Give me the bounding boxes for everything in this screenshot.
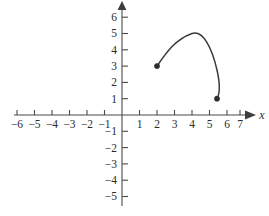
y-tick-label-1: 1 [111, 93, 117, 105]
x-tick-label-neg4: −4 [46, 118, 58, 130]
x-axis-label: x [258, 108, 265, 122]
x-tick-label-1: 1 [137, 118, 143, 130]
x-tick-label-neg3: −3 [63, 118, 75, 130]
x-tick-label-7: 7 [237, 118, 243, 130]
x-axis-arrow-icon [245, 111, 256, 120]
y-tick-label-neg1: −1 [105, 125, 117, 137]
y-tick-label-neg3: −3 [105, 158, 117, 170]
coordinate-plane-svg: −6 −5 −4 −3 −2 −1 1 2 3 4 5 6 7 1 2 3 4 … [0, 0, 269, 216]
x-tick-label-5: 5 [207, 118, 213, 130]
y-tick-label-neg4: −4 [105, 174, 117, 186]
x-tick-label-neg2: −2 [81, 118, 93, 130]
x-tick-label-neg5: −5 [28, 118, 40, 130]
graph-figure: −6 −5 −4 −3 −2 −1 1 2 3 4 5 6 7 1 2 3 4 … [0, 0, 269, 216]
y-axis-arrow-icon [118, 1, 127, 10]
x-tick-label-neg6: −6 [11, 118, 23, 130]
y-tick-label-neg2: −2 [105, 142, 117, 154]
function-curve [157, 33, 219, 99]
y-tick-label-3: 3 [111, 60, 117, 72]
y-tick-label-5: 5 [111, 27, 117, 39]
x-tick-label-2: 2 [154, 118, 160, 130]
y-tick-label-4: 4 [111, 44, 117, 56]
x-tick-label-3: 3 [172, 118, 178, 130]
x-tick-label-4: 4 [189, 118, 195, 130]
curve-endpoint-left [154, 64, 159, 69]
y-tick-label-2: 2 [111, 76, 117, 88]
y-tick-label-6: 6 [111, 11, 117, 23]
y-tick-label-neg5: −5 [105, 190, 117, 202]
curve-endpoint-right [214, 96, 219, 101]
x-tick-label-6: 6 [224, 118, 230, 130]
